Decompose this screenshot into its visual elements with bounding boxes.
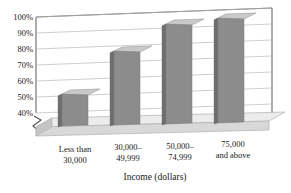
bar-front-face-1: [62, 94, 88, 126]
bar-chart: 100% 90% 80% 70% 60% 50% 40%: [0, 0, 291, 193]
category-label-3-line2: 74,999: [168, 152, 191, 162]
category-label-1-line1: Less than: [59, 144, 92, 154]
category-label-4-line1: 75,000: [221, 139, 244, 149]
category-label-4-line2: and above: [216, 150, 251, 160]
y-tick-label-80: 80%: [17, 44, 33, 54]
bar-front-face-2: [114, 51, 140, 125]
category-label-2-line2: 49,999: [116, 153, 139, 163]
y-tick-label-90: 90%: [17, 28, 33, 38]
category-label-2-line1: 30,000–: [114, 142, 142, 152]
category-label-1-line2: 30,000: [63, 155, 86, 165]
bar-side-face-2: [110, 51, 114, 126]
bar-side-face-1: [58, 94, 62, 127]
bar-front-face-4: [218, 18, 244, 123]
y-tick-label-100: 100%: [13, 12, 33, 22]
bar-side-face-3: [162, 24, 166, 125]
y-tick-label-60: 60%: [17, 76, 33, 86]
category-label-3-line1: 50,000–: [166, 141, 194, 151]
bar-side-face-4: [214, 18, 218, 124]
bar-front-face-3: [166, 24, 192, 124]
y-tick-label-40: 40%: [17, 108, 33, 118]
y-tick-label-50: 50%: [17, 92, 33, 102]
y-tick-label-70: 70%: [17, 60, 33, 70]
x-axis-title: Income (dollars): [123, 172, 186, 183]
chart-canvas: 100% 90% 80% 70% 60% 50% 40%: [0, 0, 291, 193]
